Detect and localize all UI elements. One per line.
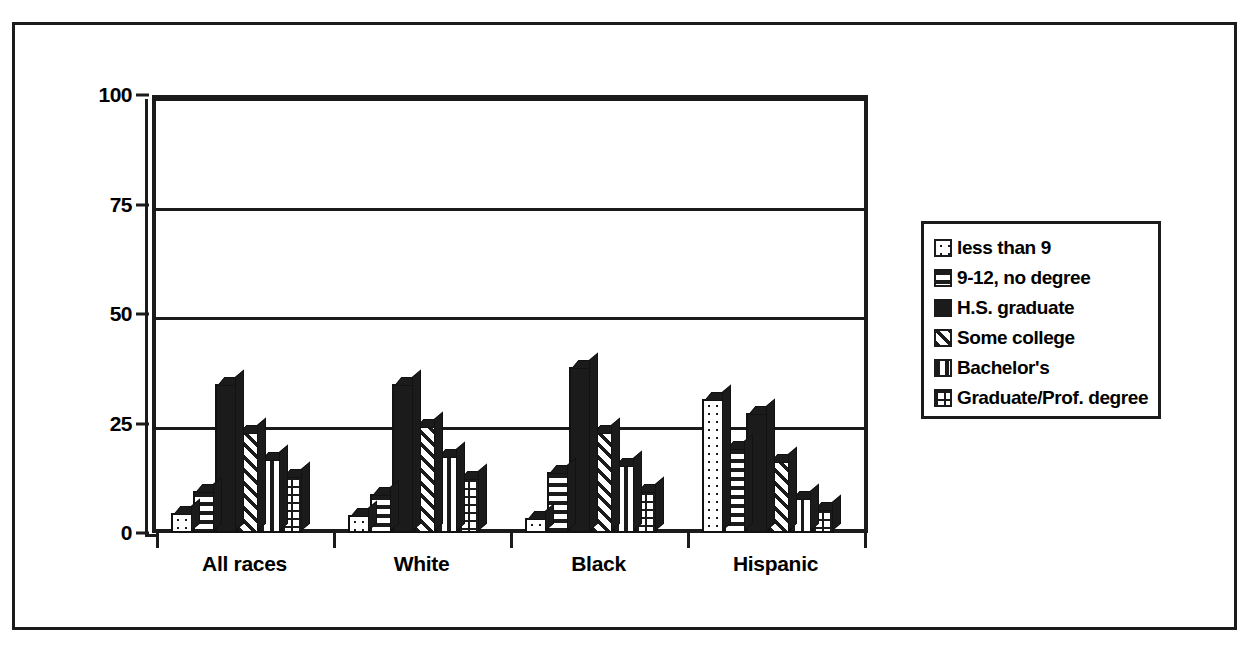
chart-legend: less than 99-12, no degreeH.S. graduateS… — [921, 221, 1161, 419]
bar-side-face — [589, 352, 598, 531]
grouped-bar-chart: 0255075100 All racesWhiteBlackHispanic l… — [0, 0, 1249, 647]
bar-side-face — [412, 370, 421, 531]
bar-side-face — [567, 457, 576, 531]
x-tick-mark — [333, 533, 336, 548]
y-tick-mark-100 — [136, 94, 149, 97]
bar-side-face — [213, 477, 222, 531]
y-tick-label-100: 100 — [70, 83, 132, 107]
y-tick-mark-75 — [136, 203, 149, 206]
bar-side-face — [434, 411, 443, 531]
legend-swatch-grid-icon — [934, 389, 952, 407]
y-tick-mark-25 — [136, 422, 149, 425]
bar-side-face — [655, 477, 664, 531]
bar-side-face — [832, 494, 841, 531]
bar-side-face — [456, 442, 465, 531]
legend-swatch-dots-icon — [934, 239, 952, 257]
legend-item[interactable]: Some college — [934, 323, 1158, 352]
x-tick-mark — [687, 533, 690, 548]
legend-label: less than 9 — [957, 237, 1051, 259]
legend-label: Bachelor's — [957, 357, 1049, 379]
legend-label: Some college — [957, 327, 1075, 349]
x-axis-label-hispanic: Hispanic — [733, 552, 818, 576]
bar-side-face — [279, 444, 288, 531]
x-axis-label-black: Black — [571, 552, 626, 576]
bar-group — [510, 95, 687, 533]
bar-group — [156, 95, 333, 533]
bar — [702, 399, 724, 533]
y-tick-label-0: 0 — [70, 521, 132, 545]
y-tick-mark-50 — [136, 313, 149, 316]
legend-item[interactable]: 9-12, no degree — [934, 263, 1158, 292]
bar-side-face — [744, 433, 753, 531]
x-tick-mark — [156, 533, 159, 548]
legend-item[interactable]: Graduate/Prof. degree — [934, 383, 1158, 412]
bar-side-face — [611, 418, 620, 531]
y-tick-label-50: 50 — [70, 302, 132, 326]
bar-side-face — [390, 479, 399, 531]
legend-item[interactable]: less than 9 — [934, 233, 1158, 262]
bar-group — [333, 95, 510, 533]
y-axis-3d-rail — [145, 99, 152, 537]
bar-group — [687, 95, 864, 533]
legend-swatch-diag-icon — [934, 329, 952, 347]
legend-label: H.S. graduate — [957, 297, 1074, 319]
legend-swatch-vlines-icon — [934, 359, 952, 377]
bar — [525, 518, 547, 533]
legend-swatch-hlines-icon — [934, 269, 952, 287]
y-tick-label-75: 75 — [70, 193, 132, 217]
x-tick-mark — [864, 533, 867, 548]
bar — [348, 515, 370, 533]
y-tick-label-25: 25 — [70, 412, 132, 436]
bar-side-face — [788, 446, 797, 531]
bar-side-face — [722, 385, 731, 531]
bar-side-face — [235, 370, 244, 531]
bar — [171, 513, 193, 533]
y-tick-mark-0 — [136, 532, 149, 535]
bar-side-face — [633, 451, 642, 531]
x-tick-mark — [510, 533, 513, 548]
legend-item[interactable]: Bachelor's — [934, 353, 1158, 382]
legend-label: Graduate/Prof. degree — [957, 387, 1148, 409]
legend-swatch-solid-icon — [934, 299, 952, 317]
bar-side-face — [478, 464, 487, 531]
legend-label: 9-12, no degree — [957, 267, 1090, 289]
x-axis-label-all-races: All races — [202, 552, 287, 576]
bar-side-face — [810, 483, 819, 531]
x-axis-label-white: White — [394, 552, 450, 576]
legend-item[interactable]: H.S. graduate — [934, 293, 1158, 322]
y-axis: 0255075100 — [70, 95, 132, 533]
bar-side-face — [257, 418, 266, 531]
bar-side-face — [301, 462, 310, 531]
bars-layer — [156, 95, 864, 533]
bar-side-face — [766, 398, 775, 531]
